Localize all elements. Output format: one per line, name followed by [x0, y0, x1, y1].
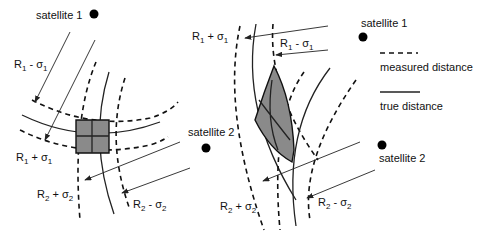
left-r2-minus-label: R2 - σ2 [133, 198, 167, 213]
right-satellite-1-dot [359, 33, 368, 42]
legend-true-label: true distance [380, 100, 443, 112]
right-satellite-2-label: satellite 2 [379, 152, 425, 164]
right-r2-minus-label: R2 - σ2 [318, 196, 352, 211]
left-satellite-1-label: satellite 1 [36, 9, 82, 21]
legend: measured distance true distance [380, 53, 473, 112]
right-r1-minus-label: R1 - σ1 [280, 37, 314, 52]
r-r2-minus-arrow [307, 170, 375, 198]
r2-minus-arrow [122, 168, 190, 193]
sat1-inner-dashed-arc [32, 100, 178, 121]
satellite-1-dot [90, 10, 99, 19]
sat2-inner-dashed-arc [116, 78, 130, 210]
gps-uncertainty-diagram: satellite 1 R1 - σ1 R1 + σ1 R2 + σ2 R2 -… [0, 0, 485, 234]
right-satellite-1-label: satellite 1 [361, 17, 407, 29]
r-r1-minus-arrow [276, 50, 328, 55]
right-satellite-2-dot [378, 141, 387, 150]
left-r2-plus-label: R2 + σ2 [37, 188, 74, 203]
right-uncertainty-region [255, 66, 294, 162]
left-r1-plus-label: R1 + σ1 [16, 151, 53, 166]
satellite-2-dot [202, 144, 211, 153]
right-r1-plus-label: R1 + σ1 [192, 30, 229, 45]
right-diagram: R1 + σ1 R1 - σ1 R2 + σ2 R2 - σ2 satellit… [192, 17, 425, 230]
legend-measured-label: measured distance [380, 61, 473, 73]
left-r1-minus-label: R1 - σ1 [14, 58, 48, 73]
left-satellite-2-label: satellite 2 [188, 126, 234, 138]
right-r2-plus-label: R2 + σ2 [220, 200, 257, 215]
